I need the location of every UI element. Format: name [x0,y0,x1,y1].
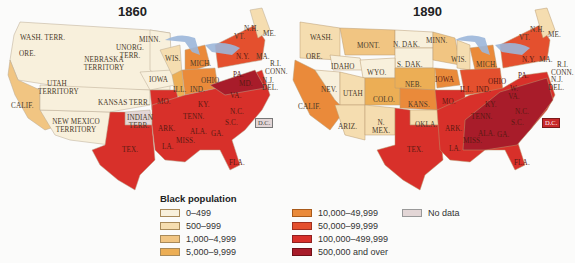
state-label: CALIF. [11,102,34,110]
state-label: ILL. [173,86,186,94]
state-label: N.C. [230,108,244,116]
state-label: N.H. [530,26,544,34]
state-label: MICH. [476,61,497,69]
legend-title: Black population [160,193,482,204]
state-label: LA. [449,145,461,153]
state-label: ALA. [190,128,207,136]
legend-label: 5,000–9,999 [186,247,236,257]
state-label: R.I. [270,60,281,68]
state-label: MINN. [139,36,160,44]
legend-label: 1,000–4,999 [186,234,236,244]
legend-item: No data [402,207,482,218]
state-label: S.C. [511,119,524,127]
legend-label: 0–499 [186,208,211,218]
state-label: KANSAS TERR. [98,99,150,107]
state-label: ARIZ. [338,123,357,131]
state-label: PA. [233,71,244,79]
state-label: NEB. [405,81,422,89]
state-label: OKLA. [415,121,437,129]
state-label: WASH. [310,34,333,42]
state-label: ILL. [460,86,473,94]
state-label: ARK. [158,125,175,133]
state-label: WYO. [367,69,386,77]
legend-label: 500–999 [186,221,221,231]
state-label: KANS. [408,101,430,109]
state-label: W. VA. [508,85,520,101]
legend-swatch [160,248,180,256]
state-label: ME. [263,30,276,38]
state-label: KY. [485,101,497,109]
state-label: VT. [519,34,530,42]
legend: Black population 0–499 10,000–49,999 No … [160,193,482,257]
state-label: TEX. [407,146,423,154]
state-label: R.I. [557,61,568,69]
legend-swatch [292,248,312,256]
legend-label: 50,000–99,999 [318,221,378,231]
legend-item: 1,000–4,999 [160,233,292,244]
state-label: IND. [190,86,205,94]
state-label: WIS. [165,55,180,63]
state-label: N.H. [244,25,258,33]
legend-swatch [292,235,312,243]
legend-label: No data [428,208,460,218]
state-label: UTAH TERRITORY [38,80,76,96]
state-label: UTAH [343,90,363,98]
legend-item: 500–999 [160,220,292,231]
state-label: MINN. [426,37,447,45]
state-label: GA. [497,131,509,139]
state-label: NEV. [321,86,337,94]
state-label: FLA. [514,159,530,167]
state-label: NEW MEXICO TERRITORY [50,118,102,134]
state-label: INDIAN TERR. [127,114,151,130]
map-1860: 1860 [0,0,290,200]
legend-swatch [160,235,180,243]
state-label: MO. [157,98,171,106]
state-label: N. DAK. [393,41,420,49]
state-label: N.C. [515,108,529,116]
state-label: N.J. [551,76,563,84]
state-label: GA. [211,130,223,138]
legend-swatch [160,222,180,230]
legend-item: 100,000–499,999 [292,233,402,244]
legend-swatch [292,222,312,230]
state-label: MO. [442,98,456,106]
state-label: FLA. [229,159,245,167]
state-label: COLO. [373,96,395,104]
state-label: MONT. [357,42,380,50]
state-label: MD. [239,80,253,88]
state-label: VA. [230,92,242,100]
legend-label: 500,000 and over [318,247,388,257]
legend-item: 500,000 and over [292,246,402,257]
state-label: IDAHO [331,63,355,71]
dc-marker: D.C. [255,118,273,128]
state-label: NEBRASKA TERRITORY [82,56,126,72]
legend-label: 100,000–499,999 [318,234,388,244]
state-label: OHIO [201,77,219,85]
map-1890: 1890 [285,0,575,200]
state-label: S. DAK. [397,61,423,69]
state-label: DEL. [548,84,564,92]
legend-label: 10,000–49,999 [318,208,378,218]
legend-swatch [402,209,422,217]
state-label: N. MEX. [370,119,392,135]
state-label: TENN. [471,113,492,121]
legend-item: 10,000–49,999 [292,207,402,218]
state-label: N.Y. [236,53,249,61]
legend-item: 0–499 [160,207,292,218]
state-label: S.C. [225,119,238,127]
state-label: ORE. [306,53,323,61]
state-label: LA. [162,143,174,151]
state-label: N.Y. [522,56,535,64]
state-label: IOWA [435,76,454,84]
state-label: CALIF. [298,103,321,111]
state-label: VT. [234,33,245,41]
state-label: WASH. TERR. [20,34,65,42]
legend-swatch [292,209,312,217]
state-label: KY. [198,101,210,109]
state-label: OHIO [488,78,506,86]
state-label: ORE. [19,50,36,58]
legend-swatch [160,209,180,217]
state-label: MISS. [176,137,195,145]
state-label: ME. [548,31,561,39]
legend-item: 50,000–99,999 [292,220,402,231]
